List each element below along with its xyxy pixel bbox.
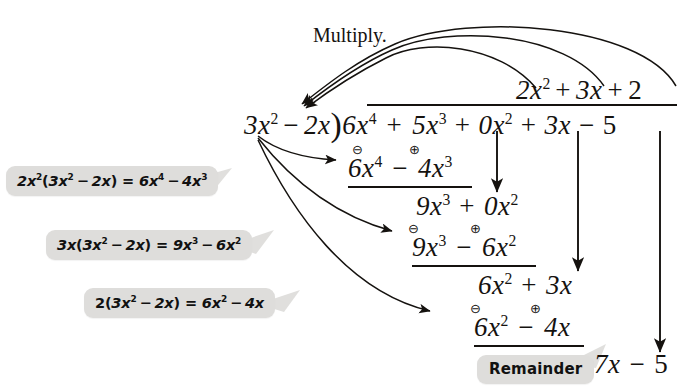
divisor-term-2: 2x [304, 110, 330, 140]
quotient-term-3: 2 [628, 75, 642, 105]
dividend-term-1: 6x4 [342, 110, 376, 140]
step2-op: − [446, 232, 482, 262]
step2-result-term-2: 3x [546, 270, 572, 300]
quotient-op-1: + [550, 75, 576, 105]
division-bracket: ) [331, 106, 343, 143]
step2-term-2: 6x2 [482, 232, 516, 262]
remainder-label-callout: Remainder [477, 355, 594, 384]
step2-result-op: + [512, 270, 546, 300]
quotient-op-2: + [603, 75, 629, 105]
callout-multiply-step-3: 2(3x2−2x)=6x2−4x [84, 288, 275, 318]
step2-result-term-1: 6x2 [478, 270, 512, 300]
step3-subtract-row: 6x2−4x [474, 313, 571, 341]
divisor-op: − [278, 110, 304, 140]
quotient-term-1: 2x2 [516, 75, 550, 105]
remainder-term-2: 5 [654, 349, 668, 379]
quotient-row: 2x2+3x+2 [516, 76, 642, 104]
divisor-term-1: 3x2 [244, 110, 278, 140]
dividend-op-3: + [513, 110, 545, 140]
dividend-term-5: 5 [603, 110, 617, 140]
step1-result-op: + [450, 191, 484, 221]
step1-subtraction-bar [348, 186, 472, 188]
step3-op: − [508, 312, 544, 342]
step1-op: − [382, 153, 418, 183]
step2-subtraction-bar [412, 265, 536, 267]
step2-result-row: 6x2+3x [478, 271, 573, 299]
divisor-dividend-row: 3x2−2x)6x4+5x3+0x2+3x−5 [244, 106, 617, 140]
subtract-arrow-2 [258, 138, 392, 231]
callout-multiply-step-1: 2x2(3x2−2x)=6x4−4x3 [6, 166, 218, 196]
step1-result-row: 9x3+0x2 [416, 192, 518, 220]
dividend-op-1: + [377, 110, 413, 140]
step1-result-term-1: 9x3 [416, 191, 450, 221]
callout-multiply-step-2: 3x(3x2−2x)=9x3−6x2 [46, 230, 252, 260]
step3-term-2: 4x [544, 312, 570, 342]
step1-result-term-2: 0x2 [484, 191, 518, 221]
remainder-value-row: 7x−5 [594, 351, 668, 378]
step2-term-1: 9x3 [412, 232, 446, 262]
step3-term-1: 6x2 [474, 312, 508, 342]
dividend-term-2: 5x3 [412, 110, 446, 140]
remainder-op: − [620, 349, 654, 379]
step3-subtraction-bar [474, 345, 584, 347]
dividend-op-4: − [571, 110, 603, 140]
step1-term-2: 4x3 [418, 153, 452, 183]
multiply-arrow-3 [306, 47, 536, 108]
quotient-term-2: 3x [576, 75, 602, 105]
polynomial-long-division-figure: Multiply. 2x2+3x+2 3x2−2x)6x4+5x3+0x2+3x… [0, 0, 685, 389]
dividend-term-4: 3x [544, 110, 570, 140]
step1-subtract-row: 6x4−4x3 [348, 154, 452, 182]
step1-term-1: 6x4 [348, 153, 382, 183]
remainder-term-1: 7x [594, 349, 620, 379]
multiply-caption: Multiply. [313, 24, 387, 47]
dividend-op-2: + [447, 110, 479, 140]
dividend-term-3: 0x2 [478, 110, 512, 140]
step2-subtract-row: 9x3−6x2 [412, 233, 516, 261]
